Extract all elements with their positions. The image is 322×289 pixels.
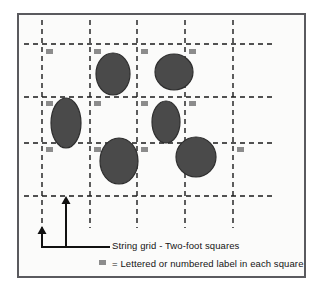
grid-square-label-marker-0 bbox=[46, 49, 53, 54]
grid-square-label-marker-5 bbox=[94, 101, 101, 106]
feature-ellipse-4 bbox=[100, 138, 138, 184]
feature-ellipse-0 bbox=[96, 53, 130, 95]
grid-square-label-marker-6 bbox=[141, 101, 148, 106]
grid-square-label-marker-11 bbox=[237, 147, 244, 152]
feature-ellipse-5 bbox=[176, 137, 216, 177]
grid-square-label-marker-3 bbox=[189, 49, 196, 54]
grid-square-label-marker-1 bbox=[94, 49, 101, 54]
grid-square-label-marker-7 bbox=[189, 101, 196, 106]
grid-square-label-marker-10 bbox=[141, 147, 148, 152]
callout-leader-and-arrows bbox=[38, 196, 109, 247]
legend-label-marker-swatch-icon bbox=[99, 260, 106, 265]
grid-square-label-marker-9 bbox=[94, 147, 101, 152]
excavation-grid-figure: String grid - Two-foot squares = Lettere… bbox=[0, 0, 322, 289]
legend-swatches bbox=[96, 247, 110, 265]
grid-square-label-marker-4 bbox=[46, 101, 53, 106]
feature-ellipses bbox=[51, 53, 216, 184]
feature-ellipse-1 bbox=[155, 54, 193, 90]
feature-ellipse-3 bbox=[152, 101, 180, 143]
tall-arrow-head-icon bbox=[62, 196, 71, 204]
short-arrow-head-icon bbox=[38, 226, 47, 234]
grid-square-label-marker-8 bbox=[46, 147, 53, 152]
feature-ellipse-2 bbox=[51, 98, 81, 148]
grid-square-label-marker-2 bbox=[141, 49, 148, 54]
legend-string-grid-label: String grid - Two-foot squares bbox=[112, 240, 239, 251]
legend-label-marker-label: = Lettered or numbered label in each squ… bbox=[112, 258, 304, 269]
